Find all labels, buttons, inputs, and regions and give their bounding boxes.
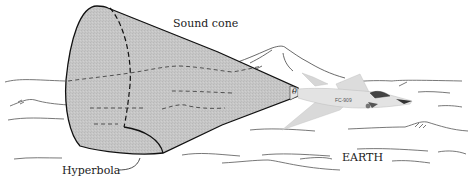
sound-cone-label: Sound cone	[173, 18, 238, 29]
angle-theta-label: θ	[292, 88, 297, 96]
earth-label: EARTH	[342, 152, 383, 163]
roundel-icon	[366, 104, 370, 108]
sound-cone-diagram: Sound cone Hyperbola EARTH θ FC-909	[0, 0, 473, 177]
aircraft-marking: FC-909	[335, 98, 352, 103]
hyperbola-label: Hyperbola	[62, 165, 120, 176]
